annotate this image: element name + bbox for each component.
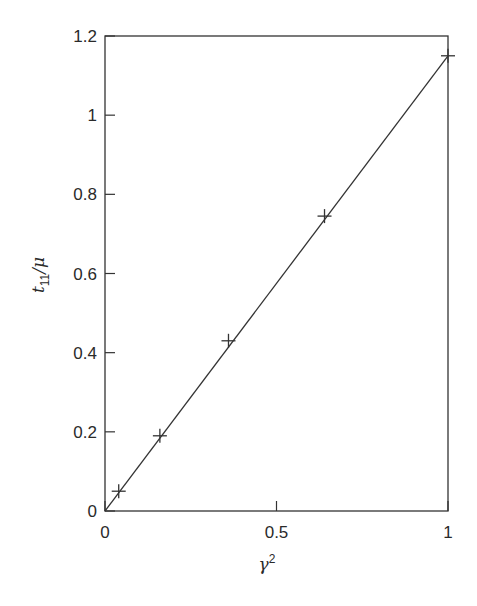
plot-series: [105, 49, 455, 511]
x-tick-label: 1: [443, 523, 452, 542]
x-axis-title: γ2: [259, 552, 276, 574]
y-tick-label: 0.2: [73, 423, 97, 442]
fit-line: [105, 56, 448, 511]
axes-box: [105, 36, 448, 511]
chart: 00.20.40.60.811.2 00.51 γ2 t11/μ: [0, 0, 477, 606]
y-tick-label: 1: [88, 106, 97, 125]
x-tick-label: 0.5: [265, 523, 289, 542]
y-tick-label: 0: [88, 502, 97, 521]
y-tick-label: 1.2: [73, 27, 97, 46]
y-axis-ticks: 00.20.40.60.811.2: [73, 27, 115, 521]
plot-frame: [105, 36, 448, 511]
y-tick-label: 0.8: [73, 185, 97, 204]
data-point-plus-marker: [318, 209, 332, 223]
y-axis-title: t11/μ: [28, 257, 52, 293]
x-tick-label: 0: [100, 523, 109, 542]
y-tick-label: 0.6: [73, 265, 97, 284]
y-tick-label: 0.4: [73, 344, 97, 363]
x-axis-ticks: 00.51: [100, 501, 452, 542]
